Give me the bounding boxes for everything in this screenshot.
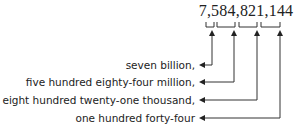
arrow-up-icon	[254, 30, 260, 36]
arrow-left-icon	[199, 97, 205, 103]
connector-millions	[203, 35, 234, 82]
arrow-left-icon	[199, 62, 205, 68]
label-ones: one hundred forty-four	[75, 112, 195, 124]
arrow-up-icon	[277, 30, 283, 36]
connector-billions	[203, 35, 212, 65]
arrow-up-icon	[231, 30, 237, 36]
bracket-ones	[261, 22, 280, 27]
arrow-left-icon	[199, 79, 205, 85]
connector-thousands	[203, 35, 257, 100]
arrow-left-icon	[199, 115, 205, 121]
bracket-millions	[217, 22, 235, 27]
connector-ones	[203, 35, 280, 118]
label-billions: seven billion,	[126, 59, 195, 71]
arrow-up-icon	[209, 30, 215, 36]
label-thousands: eight hundred twenty-one thousand,	[2, 94, 195, 106]
label-millions: five hundred eighty-four million,	[26, 76, 195, 88]
bracket-thousands	[239, 22, 257, 27]
bracket-billions	[206, 22, 214, 27]
